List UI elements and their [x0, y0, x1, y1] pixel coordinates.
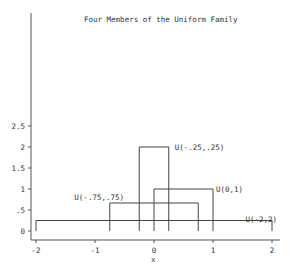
x-tick-label: -2: [31, 246, 40, 255]
uniform-family-chart: Four Members of the Uniform Family 0.511…: [0, 0, 292, 272]
chart-svg: Four Members of the Uniform Family 0.511…: [0, 0, 292, 272]
x-tick-label: 0: [152, 246, 157, 255]
y-tick-label: .5: [16, 206, 25, 215]
series-label: U(-.25,.25): [175, 143, 225, 152]
y-tick-label: 2.5: [11, 122, 25, 131]
axes: 0.511.522.5-2-1012: [11, 13, 280, 255]
y-tick-label: 0: [20, 227, 25, 236]
chart-title: Four Members of the Uniform Family: [84, 15, 238, 24]
series-label: U(0,1): [216, 185, 243, 194]
y-tick-label: 1: [20, 185, 25, 194]
y-tick-label: 2: [20, 143, 25, 152]
series-label: U(-.75,.75): [74, 193, 124, 202]
x-axis-label: x: [151, 255, 156, 264]
x-tick-label: 1: [211, 246, 216, 255]
x-tick-label: -1: [90, 246, 99, 255]
x-tick-label: 2: [270, 246, 275, 255]
series-label: U(-2,2): [245, 215, 277, 224]
density-box: [154, 189, 213, 231]
y-tick-label: 1.5: [11, 164, 25, 173]
series-group: U(-.25,.25)U(0,1)U(-.75,.75)U(-2,2): [36, 143, 277, 231]
